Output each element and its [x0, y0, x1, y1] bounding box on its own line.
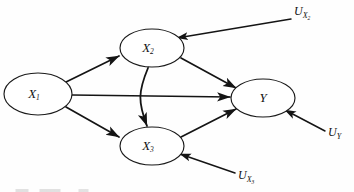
disturbance-label-uy: UY: [328, 125, 343, 141]
disturbance-label-ux3: UX3: [238, 168, 255, 185]
edge-ux2-to-x2: [177, 19, 291, 38]
node-y[interactable]: Y: [231, 79, 295, 117]
edge-uy-to-y: [285, 110, 325, 131]
figure-canvas: X1 X2 X3 Y UX2 UY: [0, 0, 354, 192]
edge-x3-to-y: [181, 109, 236, 137]
cropped-caption-artifact: [12, 185, 98, 192]
node-x1[interactable]: X1: [4, 73, 72, 115]
edge-x2-x3-bidirectional: [140, 68, 148, 126]
edge-x1-to-x2: [66, 56, 119, 82]
causal-diagram: X1 X2 X3 Y UX2 UY: [0, 0, 354, 192]
disturbance-label-ux2: UX2: [294, 4, 311, 21]
edge-x2-to-y: [181, 58, 236, 88]
node-layer: X1 X2 X3 Y: [4, 29, 295, 165]
node-x2[interactable]: X2: [120, 29, 184, 67]
edge-x1-to-x3: [66, 107, 119, 137]
node-x3[interactable]: X3: [120, 127, 184, 165]
edge-x1-to-y: [72, 95, 230, 97]
edge-ux3-to-x3: [180, 154, 235, 173]
